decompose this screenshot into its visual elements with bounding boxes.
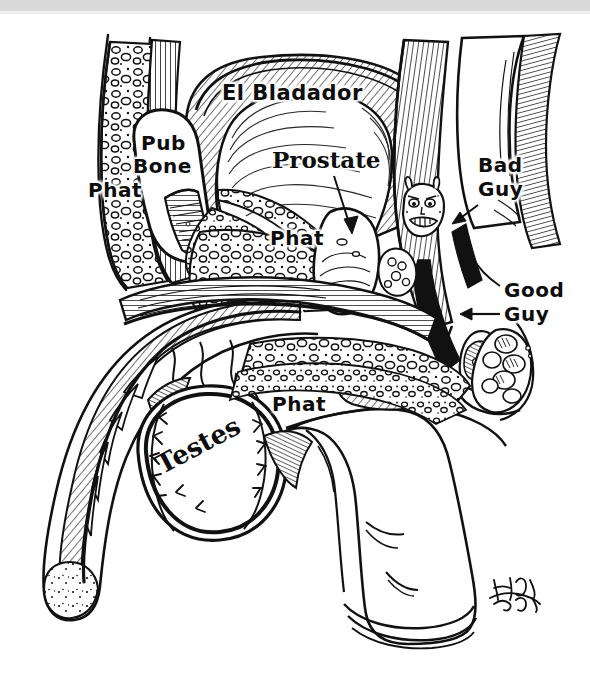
illustration-page: El Bladador Prostate Pub Bone Phat Phat … [0,0,590,677]
label-good: Good [504,280,564,300]
label-bad: Bad [478,155,523,175]
label-phat-center: Phat [270,228,324,248]
label-pub: Pub [141,133,186,153]
good-guy-arrow [460,308,500,320]
bad-guy-face [403,177,444,236]
perineum-and-glans [264,407,506,648]
seminal-vesicle-cluster [379,249,417,296]
label-good-guy: Guy [504,304,549,324]
label-bad-guy: Guy [478,179,523,199]
artist-signature [490,578,540,612]
gluteal-mass [457,34,560,248]
label-phat-upper-left: Phat [88,180,142,200]
label-phat-lower: Phat [272,394,326,414]
label-el-bladador: El Bladador [222,83,363,104]
label-prostate: Prostate [272,148,381,171]
label-bone: Bone [133,156,192,176]
